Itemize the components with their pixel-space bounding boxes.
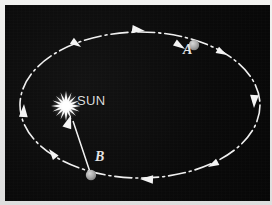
radius-vector-b-to-sun <box>62 114 91 175</box>
arrow-bottom-icon <box>140 175 153 184</box>
body-b-label: B <box>95 150 104 164</box>
arrow-top-icon <box>132 25 146 35</box>
space-background: SUN A B <box>5 5 270 201</box>
orbit-diagram-figure: SUN A B <box>0 0 272 205</box>
body-b-dot <box>86 170 96 180</box>
arrow-right-icon <box>250 95 259 108</box>
orbit-scene-svg <box>5 5 270 201</box>
body-b <box>86 170 96 180</box>
arrow-top-right-icon <box>216 47 229 59</box>
sun-core <box>62 102 71 111</box>
sun-label: SUN <box>77 94 106 107</box>
arrow-top-left-icon <box>70 38 83 50</box>
arrow-bottom-left-icon <box>46 147 58 160</box>
body-a-label: A <box>183 43 192 57</box>
